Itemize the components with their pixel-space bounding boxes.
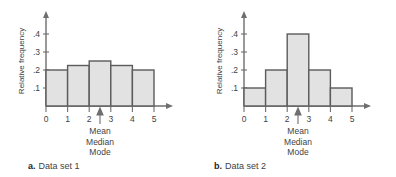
x-tick-label: 0	[242, 114, 247, 124]
x-tick-label: 2	[285, 114, 290, 124]
y-tick-label: .3	[33, 47, 40, 57]
x-tick-label: 5	[350, 114, 355, 124]
caption-text-b: Data set 2	[225, 161, 266, 171]
center-measures-a: Mean Median Mode	[65, 126, 135, 158]
x-tick-label: 1	[263, 114, 268, 124]
x-tick-label: 5	[152, 114, 157, 124]
bar	[111, 66, 133, 107]
bar	[68, 66, 90, 107]
x-tick-label: 3	[306, 114, 311, 124]
two-histogram-figure: .1 .2 .3 .4 Relative frequency	[0, 0, 396, 177]
mean-label: Mean	[263, 126, 333, 137]
center-marker-arrow-icon-a	[97, 108, 103, 124]
x-tick-label: 0	[44, 114, 49, 124]
bar	[330, 88, 352, 106]
bar	[244, 88, 266, 106]
y-tick-label: .2	[231, 65, 238, 75]
x-tick-label: 1	[65, 114, 70, 124]
caption-marker-b: b.	[214, 161, 222, 171]
bar	[309, 70, 331, 106]
y-tick-label: .1	[33, 83, 40, 93]
x-tick-label: 4	[328, 114, 333, 124]
center-marker-arrow-icon-b	[295, 108, 301, 124]
caption-text-a: Data set 1	[39, 161, 80, 171]
bars-b	[244, 34, 352, 106]
bar	[132, 70, 154, 106]
x-tick-label: 3	[108, 114, 113, 124]
bars-a	[46, 61, 154, 106]
y-tick-label: .1	[231, 83, 238, 93]
y-axis-title-b: Relative frequency	[215, 28, 224, 94]
panel-data-set-2: .1 .2 .3 .4 Relative frequency 0	[198, 0, 396, 177]
y-tick-label: .4	[231, 29, 238, 39]
mode-label: Mode	[263, 147, 333, 158]
y-axis-title-a: Relative frequency	[17, 28, 26, 94]
y-tick-label: .3	[231, 47, 238, 57]
panel-data-set-1: .1 .2 .3 .4 Relative frequency	[0, 0, 198, 177]
bar	[46, 70, 68, 106]
center-measures-b: Mean Median Mode	[263, 126, 333, 158]
caption-b: b.Data set 2	[214, 161, 266, 171]
bar	[287, 34, 309, 106]
caption-marker-a: a.	[28, 161, 36, 171]
y-tick-label: .4	[33, 29, 40, 39]
mean-label: Mean	[65, 126, 135, 137]
bar	[266, 70, 288, 106]
x-tick-label: 4	[130, 114, 135, 124]
mode-label: Mode	[65, 147, 135, 158]
caption-a: a.Data set 1	[28, 161, 80, 171]
y-tick-label: .2	[33, 65, 40, 75]
bar	[89, 61, 111, 106]
median-label: Median	[263, 137, 333, 148]
x-tick-label: 2	[87, 114, 92, 124]
median-label: Median	[65, 137, 135, 148]
